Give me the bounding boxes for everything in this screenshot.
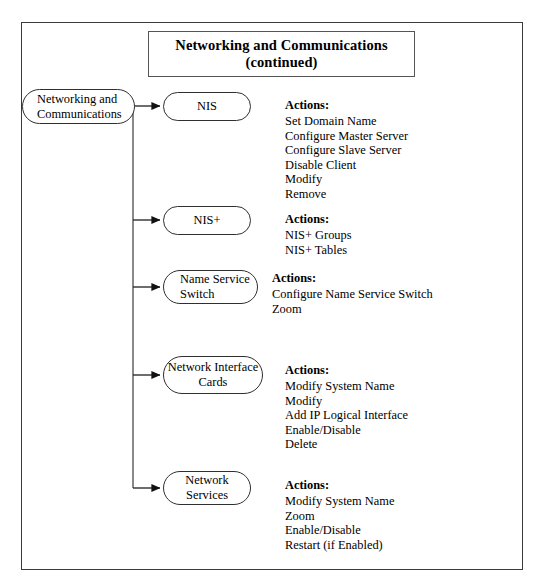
actions-heading: Actions:: [285, 98, 408, 113]
node-label: Networking and Communications: [37, 92, 122, 122]
action-item[interactable]: Modify System Name: [285, 379, 408, 394]
diagram-page: Networking and Communications (continued…: [0, 0, 543, 586]
action-item[interactable]: Modify System Name: [285, 494, 394, 509]
action-item[interactable]: Remove: [285, 187, 408, 202]
node-label: NIS+: [194, 213, 221, 228]
action-item[interactable]: Disable Client: [285, 158, 408, 173]
actions-network-services: Actions: Modify System Name Zoom Enable/…: [285, 478, 394, 552]
node-label: Network Interface Cards: [168, 360, 258, 390]
action-item[interactable]: Delete: [285, 437, 408, 452]
action-item[interactable]: Set Domain Name: [285, 114, 408, 129]
action-item[interactable]: NIS+ Groups: [285, 228, 352, 243]
node-label: NIS: [197, 99, 217, 114]
actions-heading: Actions:: [272, 271, 433, 286]
actions-heading: Actions:: [285, 478, 394, 493]
actions-nis-plus: Actions: NIS+ Groups NIS+ Tables: [285, 212, 352, 257]
action-item[interactable]: Enable/Disable: [285, 523, 394, 538]
actions-nis: Actions: Set Domain Name Configure Maste…: [285, 98, 408, 202]
action-item[interactable]: Zoom: [285, 509, 394, 524]
diagram-title-line-1: Networking and Communications: [175, 37, 387, 54]
action-item[interactable]: NIS+ Tables: [285, 243, 352, 258]
action-item[interactable]: Configure Slave Server: [285, 143, 408, 158]
actions-name-service-switch: Actions: Configure Name Service Switch Z…: [272, 271, 433, 316]
action-item[interactable]: Modify: [285, 172, 408, 187]
node-networking-and-communications[interactable]: Networking and Communications: [22, 89, 135, 124]
actions-heading: Actions:: [285, 212, 352, 227]
node-nis[interactable]: NIS: [163, 92, 251, 121]
action-item[interactable]: Add IP Logical Interface: [285, 408, 408, 423]
node-label: Name Service Switch: [180, 272, 250, 302]
diagram-title-line-2: (continued): [246, 54, 318, 71]
node-nis-plus[interactable]: NIS+: [163, 206, 251, 235]
actions-heading: Actions:: [285, 363, 408, 378]
action-item[interactable]: Restart (if Enabled): [285, 538, 394, 553]
actions-network-interface-cards: Actions: Modify System Name Modify Add I…: [285, 363, 408, 452]
action-item[interactable]: Modify: [285, 394, 408, 409]
action-item[interactable]: Zoom: [272, 302, 433, 317]
node-label: Network Services: [185, 473, 228, 503]
action-item[interactable]: Configure Master Server: [285, 129, 408, 144]
node-network-services[interactable]: Network Services: [163, 471, 251, 505]
node-network-interface-cards[interactable]: Network Interface Cards: [163, 356, 263, 394]
action-item[interactable]: Enable/Disable: [285, 423, 408, 438]
diagram-title-box: Networking and Communications (continued…: [148, 31, 415, 77]
action-item[interactable]: Configure Name Service Switch: [272, 287, 433, 302]
node-name-service-switch[interactable]: Name Service Switch: [163, 270, 258, 304]
